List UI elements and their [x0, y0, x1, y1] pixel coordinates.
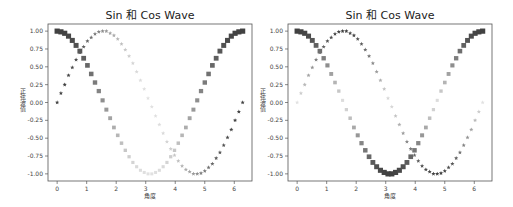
sin-marker	[66, 73, 70, 77]
cos-marker	[337, 89, 340, 92]
x-tick-label: 2	[354, 185, 358, 192]
sin-marker	[142, 87, 146, 91]
y-tick-label: -1.00	[267, 170, 283, 177]
x-tick-label: 1	[325, 185, 329, 192]
cos-marker	[214, 56, 219, 61]
y-tick-label: 0.75	[270, 45, 284, 52]
sin-marker	[462, 143, 466, 147]
chart-title-right: Sin 和 Cos Wave	[346, 6, 435, 22]
sin-marker	[123, 47, 127, 51]
sin-marker	[352, 33, 356, 37]
sin-marker	[241, 100, 245, 104]
cos-marker	[454, 56, 458, 60]
sin-marker	[191, 172, 195, 176]
sin-marker	[63, 82, 67, 86]
cos-marker	[461, 43, 466, 48]
chart-panel-right: 01234561.000.750.500.250.00-0.25-0.50-0.…	[257, 0, 513, 207]
cos-marker	[333, 81, 337, 85]
sin-marker	[104, 29, 108, 33]
cos-marker	[370, 160, 375, 165]
sin-marker	[85, 39, 89, 43]
y-axis-label-right: 正弦波值	[258, 88, 267, 112]
sin-marker	[363, 47, 367, 51]
cos-marker	[405, 160, 410, 165]
cos-marker	[314, 43, 319, 48]
cos-marker	[85, 63, 90, 68]
y-tick-label: 1.00	[270, 27, 284, 34]
sin-marker	[180, 164, 184, 168]
cos-marker	[116, 134, 120, 138]
chart-title-left: Sin 和 Cos Wave	[106, 6, 195, 22]
sin-marker	[195, 172, 199, 176]
cos-marker	[81, 56, 86, 61]
cos-marker	[321, 56, 325, 60]
sin-marker	[112, 33, 116, 37]
sin-marker	[409, 147, 413, 151]
cos-marker	[221, 43, 226, 48]
sin-marker	[382, 87, 386, 91]
sin-marker	[116, 37, 120, 41]
sin-marker	[333, 32, 337, 36]
cos-marker	[150, 172, 153, 175]
cos-marker	[329, 72, 333, 76]
cos-marker	[77, 49, 82, 54]
cos-marker	[203, 80, 207, 84]
cos-marker	[135, 165, 138, 168]
y-tick-label: 0.25	[30, 81, 44, 88]
cos-marker	[199, 89, 203, 93]
cos-marker	[401, 164, 406, 169]
x-tick-label: 6	[232, 185, 236, 192]
cos-marker	[89, 72, 94, 77]
sin-marker	[59, 91, 63, 95]
sin-marker	[108, 31, 112, 35]
cos-marker	[412, 148, 416, 152]
sin-marker	[477, 110, 481, 114]
y-tick-label: 0.75	[30, 45, 44, 52]
sin-marker	[210, 162, 214, 166]
x-tick-label: 5	[443, 185, 447, 192]
cos-marker	[436, 99, 439, 102]
cos-marker	[184, 126, 188, 130]
cos-marker	[154, 171, 157, 174]
sin-marker	[340, 29, 344, 33]
cos-marker	[165, 161, 168, 164]
y-tick-label: -0.25	[27, 116, 43, 123]
cos-marker	[131, 161, 134, 164]
sin-marker	[70, 65, 74, 69]
sin-marker	[165, 140, 169, 144]
x-tick-label: 5	[203, 185, 207, 192]
sin-marker	[435, 172, 439, 176]
x-tick-label: 0	[295, 185, 299, 192]
cos-marker	[93, 80, 97, 84]
sin-marker	[138, 78, 142, 82]
sin-marker	[469, 127, 473, 131]
sin-marker	[344, 29, 348, 33]
sin-marker	[356, 37, 360, 41]
cos-marker	[147, 172, 150, 175]
sin-marker	[127, 54, 131, 58]
sin-marker	[188, 170, 192, 174]
cos-marker	[310, 38, 315, 43]
sin-marker	[443, 169, 447, 173]
sin-marker	[206, 165, 210, 169]
cos-marker	[432, 108, 435, 111]
sin-marker	[135, 70, 139, 74]
sin-marker	[218, 150, 222, 154]
cos-marker	[428, 116, 431, 119]
sin-marker	[439, 171, 443, 175]
sin-marker	[203, 169, 207, 173]
cos-marker	[127, 155, 130, 158]
sin-marker	[222, 143, 226, 147]
sin-marker	[420, 164, 424, 168]
y-tick-label: 0.00	[270, 99, 284, 106]
cos-marker	[177, 141, 180, 144]
sin-marker	[329, 35, 333, 39]
y-tick-label: -0.75	[27, 152, 43, 159]
sin-marker	[295, 100, 299, 104]
cos-marker	[424, 126, 428, 130]
sin-marker	[233, 118, 237, 122]
cos-marker	[325, 63, 329, 67]
x-tick-label: 6	[472, 185, 476, 192]
cos-marker	[120, 141, 123, 144]
cos-marker	[217, 49, 222, 54]
